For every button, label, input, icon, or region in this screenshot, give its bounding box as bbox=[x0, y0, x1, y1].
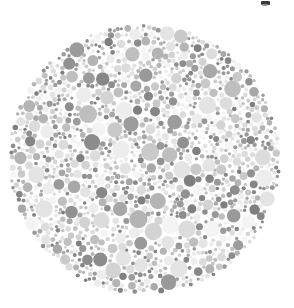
plate-dot bbox=[100, 207, 103, 210]
plate-dot bbox=[55, 64, 59, 68]
plate-dot bbox=[147, 182, 151, 186]
plate-dot bbox=[187, 131, 191, 135]
plate-dot bbox=[238, 193, 244, 199]
plate-dot bbox=[61, 211, 65, 215]
plate-dot bbox=[114, 165, 119, 170]
plate-dot bbox=[119, 163, 131, 175]
plate-dot bbox=[119, 273, 126, 280]
plate-dot bbox=[275, 183, 278, 186]
plate-dot bbox=[55, 225, 58, 228]
plate-dot bbox=[53, 220, 57, 224]
plate-dot bbox=[200, 251, 204, 255]
plate-dot bbox=[64, 158, 68, 162]
plate-dot bbox=[172, 192, 176, 196]
plate-dot bbox=[44, 248, 48, 252]
plate-dot bbox=[55, 108, 59, 112]
plate-dot bbox=[147, 163, 157, 173]
plate-dot bbox=[33, 204, 36, 207]
plate-dot bbox=[160, 26, 175, 41]
plate-dot bbox=[189, 282, 193, 286]
plate-dot bbox=[270, 185, 275, 190]
plate-dot bbox=[266, 128, 270, 132]
plate-dot bbox=[23, 183, 33, 193]
plate-dot bbox=[243, 108, 246, 111]
plate-dot bbox=[169, 184, 175, 190]
plate-dot bbox=[50, 109, 55, 114]
plate-dot bbox=[19, 128, 22, 131]
plate-dot bbox=[195, 36, 199, 40]
plate-dot bbox=[165, 96, 168, 99]
plate-dot bbox=[175, 277, 179, 281]
plate-dot bbox=[34, 195, 38, 199]
plate-dot bbox=[93, 272, 97, 276]
plate-dot bbox=[37, 238, 40, 241]
plate-dot bbox=[187, 37, 190, 40]
plate-dot bbox=[80, 56, 83, 59]
plate-dot bbox=[146, 259, 150, 263]
plate-dot bbox=[190, 216, 193, 219]
plate-dot bbox=[235, 250, 240, 255]
plate-dot bbox=[190, 164, 201, 175]
plate-dot bbox=[164, 190, 169, 195]
plate-dot bbox=[211, 238, 215, 242]
plate-dot bbox=[248, 200, 252, 204]
plate-dot bbox=[63, 58, 75, 70]
plate-dot bbox=[79, 198, 83, 202]
plate-dot bbox=[216, 120, 225, 129]
plate-dot bbox=[68, 113, 72, 117]
plate-dot bbox=[113, 88, 123, 98]
plate-dot bbox=[13, 149, 17, 153]
plate-dot bbox=[61, 58, 64, 61]
plate-dot bbox=[33, 153, 40, 160]
plate-dot bbox=[55, 174, 59, 178]
plate-dot bbox=[201, 88, 204, 91]
plate-dot bbox=[83, 212, 86, 215]
plate-dot bbox=[244, 205, 247, 208]
plate-dot bbox=[24, 216, 27, 219]
plate-dot bbox=[172, 39, 175, 42]
plate-dot bbox=[134, 74, 139, 79]
plate-dot bbox=[187, 118, 191, 122]
plate-dot bbox=[232, 107, 237, 112]
plate-dot bbox=[98, 45, 101, 48]
plate-dot bbox=[50, 243, 53, 246]
plate-dot bbox=[211, 252, 216, 257]
plate-dot bbox=[90, 230, 95, 235]
plate-dot bbox=[78, 230, 82, 234]
plate-dot bbox=[59, 223, 65, 229]
plate-dot bbox=[34, 162, 38, 166]
plate-dot bbox=[26, 199, 30, 203]
plate-dot bbox=[213, 207, 217, 211]
plate-dot bbox=[162, 133, 169, 140]
plate-dot bbox=[26, 130, 32, 136]
plate-dot bbox=[241, 151, 247, 157]
plate-dot bbox=[253, 98, 256, 101]
plate-dot bbox=[104, 107, 110, 113]
plate-dot bbox=[98, 64, 103, 69]
plate-dot bbox=[67, 54, 71, 58]
plate-dot bbox=[216, 197, 222, 203]
plate-dot bbox=[108, 28, 112, 32]
plate-dot bbox=[112, 192, 117, 197]
plate-dot bbox=[232, 103, 235, 106]
plate-dot bbox=[151, 82, 159, 90]
plate-dot bbox=[69, 194, 73, 198]
plate-dot bbox=[162, 147, 177, 162]
plate-dot bbox=[147, 25, 152, 30]
plate-dot bbox=[189, 104, 192, 107]
plate-dot bbox=[140, 229, 144, 233]
plate-dot bbox=[196, 230, 202, 236]
plate-dot bbox=[158, 244, 161, 247]
plate-dot bbox=[105, 262, 121, 278]
plate-dot bbox=[156, 63, 161, 68]
plate-dot bbox=[28, 147, 35, 154]
plate-dot bbox=[146, 253, 153, 260]
plate-dot bbox=[71, 125, 76, 130]
plate-dot bbox=[254, 223, 257, 226]
plate-dot bbox=[107, 149, 111, 153]
plate-dot bbox=[225, 76, 229, 80]
plate-dot bbox=[163, 65, 166, 68]
plate-dot bbox=[219, 147, 224, 152]
plate-dot bbox=[42, 69, 46, 73]
plate-dot bbox=[161, 187, 165, 191]
